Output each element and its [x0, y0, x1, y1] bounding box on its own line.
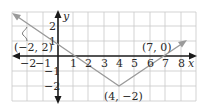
svg-text:3: 3 [101, 57, 108, 70]
point-a-label: (−2, 2) [14, 41, 53, 54]
svg-text:2: 2 [85, 57, 92, 70]
svg-text:7: 7 [162, 57, 169, 70]
y-axis-label: y [62, 10, 70, 23]
svg-text:8: 8 [178, 57, 185, 70]
svg-text:4: 4 [116, 57, 123, 70]
x-axis-label: x [188, 57, 195, 70]
svg-text:5: 5 [131, 57, 138, 70]
point-b-label: (7, 0) [142, 41, 172, 54]
point-a-leader [22, 27, 27, 41]
svg-text:1: 1 [70, 57, 77, 70]
svg-text:−2: −2 [44, 80, 60, 93]
svg-text:2: 2 [49, 20, 56, 33]
point-c-label: (4, −2) [104, 90, 143, 103]
svg-text:6: 6 [147, 57, 154, 70]
graph-left-arrow-icon [12, 13, 21, 21]
y-axis-up-arrow-icon [55, 10, 62, 18]
y-axis-down-arrow-icon [55, 96, 62, 104]
coordinate-plane: y x −2 −1 1 2 3 4 5 6 7 8 2 1 −1 −2 (−2,… [0, 0, 204, 107]
svg-text:−1: −1 [44, 65, 60, 78]
svg-text:−2: −2 [20, 57, 36, 70]
